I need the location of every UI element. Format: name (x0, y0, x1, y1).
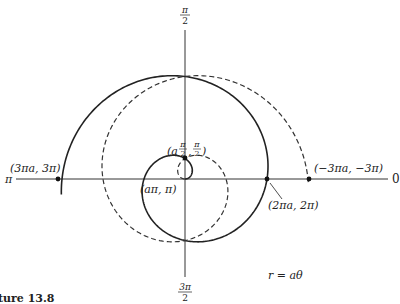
point-neg3pi (307, 177, 312, 182)
spiral-figure: π 2 3π 2 π 0 (3πa, 3π) (aπ, π) (a π 2 , … (0, 0, 400, 304)
point-3pi (56, 177, 61, 182)
axis-label-top: π 2 (180, 5, 190, 26)
label-2pi: (2πa, 2π) (268, 199, 319, 212)
label-pi: (aπ, π) (140, 183, 177, 196)
axis-label-right: 0 (392, 172, 400, 186)
equation-label: r = aθ (268, 269, 303, 282)
svg-text:): ) (201, 145, 206, 158)
svg-text:π: π (179, 140, 186, 149)
svg-text:π: π (181, 5, 189, 15)
figure-caption: ture 13.8 (0, 292, 55, 304)
svg-text:(a: (a (167, 145, 178, 158)
axis-label-bottom: 3π 2 (178, 282, 192, 303)
svg-text:2: 2 (182, 16, 188, 26)
svg-text:π: π (193, 140, 200, 149)
svg-text:2: 2 (180, 149, 185, 158)
solid-spiral-curve (61, 76, 268, 242)
label-2pi-leader (270, 183, 282, 199)
svg-text:3π: 3π (179, 282, 192, 292)
svg-text:,: , (188, 145, 192, 158)
svg-text:2: 2 (194, 149, 199, 158)
svg-text:2: 2 (182, 293, 188, 303)
point-2pi (265, 177, 270, 182)
label-3pi: (3πa, 3π) (10, 162, 61, 175)
dashed-spiral-curve (102, 76, 308, 242)
label-neg3pi: (−3πa, −3π) (314, 162, 383, 175)
